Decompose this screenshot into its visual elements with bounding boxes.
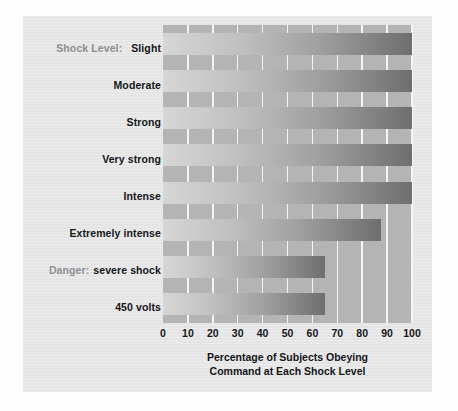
bar-series	[163, 25, 412, 323]
x-tick-label-30: 30	[232, 327, 244, 340]
category-label-text: Intense	[124, 190, 161, 202]
category-label-column: Shock Level:Slight Moderate Strong Very …	[28, 33, 161, 323]
category-label-danger-severe-shock: Danger:severe shock	[49, 263, 161, 277]
category-label-text: Strong	[127, 116, 161, 128]
x-axis-title-line-1: Percentage of Subjects Obeying	[163, 350, 412, 364]
category-label-text: severe shock	[93, 264, 161, 276]
y-axis-title: Shock Level:	[56, 42, 122, 54]
category-label-text: Extremely intense	[69, 227, 161, 239]
plot-area	[163, 25, 412, 323]
x-tick-label-100: 100	[403, 327, 421, 340]
x-axis-tick-labels: 0102030405060708090100	[163, 327, 412, 342]
category-label-moderate: Moderate	[114, 78, 161, 92]
x-tick-label-0: 0	[160, 327, 166, 340]
x-tick-label-10: 10	[182, 327, 194, 340]
bar-extremely-intense	[163, 219, 381, 241]
category-label-slight: Shock Level:Slight	[56, 41, 161, 55]
category-label-text: 450 volts	[115, 301, 161, 313]
bar-intense	[163, 182, 412, 204]
bar-slight	[163, 33, 412, 55]
bar-450-volts	[163, 293, 325, 315]
chart-figure: Shock Level:Slight Moderate Strong Very …	[0, 0, 458, 411]
x-tick-label-20: 20	[207, 327, 219, 340]
x-tick-label-90: 90	[381, 327, 393, 340]
category-label-450-volts: 450 volts	[115, 300, 161, 314]
bar-moderate	[163, 70, 412, 92]
category-label-text: Slight	[131, 42, 161, 54]
bar-very-strong	[163, 144, 412, 166]
x-tick-label-70: 70	[331, 327, 343, 340]
category-label-intense: Intense	[124, 189, 161, 203]
category-label-very-strong: Very strong	[102, 152, 161, 166]
category-label-prefix: Danger:	[49, 264, 89, 276]
x-tick-label-80: 80	[356, 327, 368, 340]
category-label-text: Very strong	[102, 153, 161, 165]
category-label-text: Moderate	[114, 79, 161, 91]
x-tick-label-40: 40	[257, 327, 269, 340]
category-label-strong: Strong	[127, 115, 161, 129]
x-tick-label-60: 60	[307, 327, 319, 340]
category-label-extremely-intense: Extremely intense	[69, 226, 161, 240]
bar-danger-severe-shock	[163, 256, 325, 278]
x-axis-title-line-2: Command at Each Shock Level	[163, 364, 412, 378]
x-tick-label-50: 50	[282, 327, 294, 340]
x-axis-title: Percentage of Subjects Obeying Command a…	[163, 350, 412, 378]
bar-strong	[163, 107, 412, 129]
